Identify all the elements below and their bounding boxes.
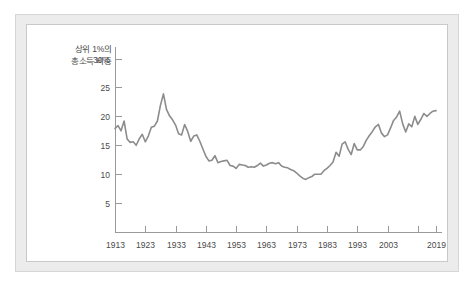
y-tick-label: 15	[101, 141, 111, 151]
y-tick-label: 20	[101, 112, 111, 122]
chart-page: 상위 1%의 총소득 비중 51015202530% 1913192319331…	[0, 0, 474, 286]
x-tick-label: 1943	[197, 240, 216, 250]
y-tick-label: 5	[105, 199, 110, 209]
x-axis-ticks	[116, 226, 437, 233]
x-tick-label: 1933	[167, 240, 186, 250]
x-tick-label: 2003	[379, 240, 398, 250]
y-axis-tick-labels: 51015202530%	[93, 55, 110, 209]
x-tick-label: 1923	[136, 240, 155, 250]
x-tick-label: 2019	[427, 240, 446, 250]
x-axis-tick-labels: 1913192319331943195319631973198319932003…	[106, 240, 446, 250]
y-tick-label: 25	[101, 83, 111, 93]
data-series-line	[115, 94, 436, 180]
y-tick-label: 10	[101, 170, 111, 180]
y-tick-label: 30%	[93, 55, 110, 65]
x-tick-label: 1983	[318, 240, 337, 250]
x-tick-label: 1973	[288, 240, 307, 250]
x-tick-label: 1963	[257, 240, 276, 250]
x-tick-label: 1913	[106, 240, 125, 250]
x-tick-label: 1953	[227, 240, 246, 250]
x-tick-label: 1993	[348, 240, 367, 250]
line-chart: 51015202530% 191319231933194319531963197…	[26, 24, 448, 262]
y-axis-ticks	[116, 60, 122, 204]
